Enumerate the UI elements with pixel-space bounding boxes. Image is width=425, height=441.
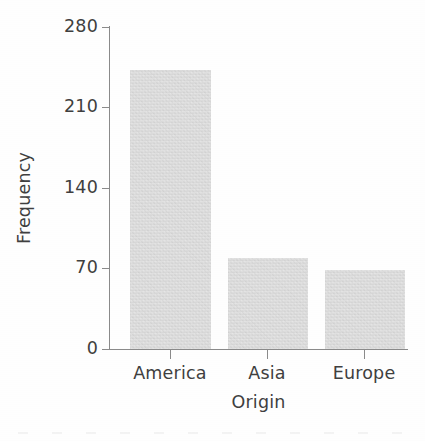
x-tick-label-europe: Europe (304, 363, 424, 383)
y-tick-label-70: 70 (52, 257, 98, 277)
bar-chart: 280 210 140 70 0 America Asia Europe Fre… (0, 0, 425, 441)
y-tick-mark-280 (102, 27, 110, 28)
y-tick-label-70-wrap: 70 (46, 257, 98, 279)
y-tick-mark-210 (102, 107, 110, 108)
y-tick-label-140-wrap: 140 (46, 177, 98, 199)
bar-america (130, 70, 211, 349)
y-tick-label-210: 210 (52, 96, 98, 116)
y-tick-mark-0 (102, 349, 110, 350)
bar-europe (325, 270, 405, 349)
y-tick-label-280-wrap: 280 (46, 16, 98, 38)
chart-page: 280 210 140 70 0 America Asia Europe Fre… (0, 0, 425, 441)
y-axis-title: Frequency (14, 113, 34, 283)
scan-edge-artifact (18, 432, 410, 434)
y-tick-label-0: 0 (52, 338, 98, 358)
x-tick-mark-america (170, 350, 171, 359)
y-tick-label-280: 280 (52, 16, 98, 36)
y-tick-mark-140 (102, 188, 110, 189)
x-tick-mark-asia (267, 350, 268, 359)
y-tick-mark-70 (102, 268, 110, 269)
x-axis-title: Origin (109, 392, 408, 412)
y-tick-label-0-wrap: 0 (46, 338, 98, 360)
x-tick-mark-europe (364, 350, 365, 359)
bar-asia (228, 258, 308, 349)
y-tick-label-140: 140 (52, 177, 98, 197)
y-tick-label-210-wrap: 210 (46, 96, 98, 118)
